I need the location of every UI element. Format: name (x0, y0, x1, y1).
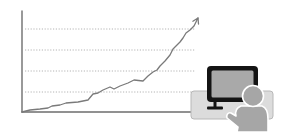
growth-illustration (0, 0, 289, 140)
monitor-stand-base (207, 107, 223, 110)
chart-gridlines (25, 29, 195, 92)
person-head (243, 86, 264, 107)
trend-line (22, 18, 198, 112)
